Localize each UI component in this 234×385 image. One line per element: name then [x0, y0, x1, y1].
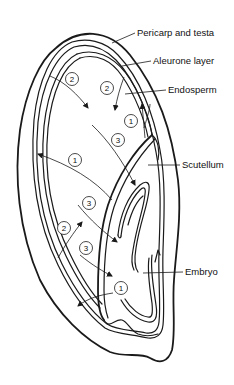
- step-number: 1: [73, 156, 78, 165]
- step-number: 2: [105, 84, 110, 93]
- step-number: 2: [62, 224, 67, 233]
- label-endosperm: Endosperm: [168, 84, 217, 95]
- step-number: 3: [84, 244, 89, 253]
- step-marker: 2: [101, 82, 114, 95]
- labels: Pericarp and testa Aleurone layer Endosp…: [137, 27, 224, 277]
- label-aleurone-layer: Aleurone layer: [153, 55, 214, 66]
- step-marker: 3: [83, 197, 96, 210]
- label-pericarp-and-testa: Pericarp and testa: [137, 27, 215, 38]
- scutellum-outline: [98, 135, 159, 320]
- step-marker: 1: [125, 115, 138, 128]
- step-marker: 3: [112, 134, 125, 147]
- step-number: 1: [129, 117, 134, 126]
- seed-diagram: Pericarp and testa Aleurone layer Endosp…: [0, 0, 234, 385]
- process-arrows: [38, 76, 150, 306]
- step-number: 2: [70, 75, 75, 84]
- step-markers: 2 2 1 3 1 3 2: [58, 73, 138, 295]
- endosperm-outline: [43, 52, 152, 308]
- label-scutellum: Scutellum: [182, 159, 224, 170]
- step-marker: 2: [58, 222, 71, 235]
- step-marker: 1: [69, 154, 82, 167]
- label-embryo: Embryo: [185, 266, 218, 277]
- step-marker: 1: [115, 282, 128, 295]
- step-marker: 2: [66, 73, 79, 86]
- embryo-structures: [104, 182, 160, 336]
- step-marker: 3: [80, 242, 93, 255]
- step-number: 3: [116, 136, 121, 145]
- step-number: 1: [119, 284, 124, 293]
- step-number: 3: [87, 199, 92, 208]
